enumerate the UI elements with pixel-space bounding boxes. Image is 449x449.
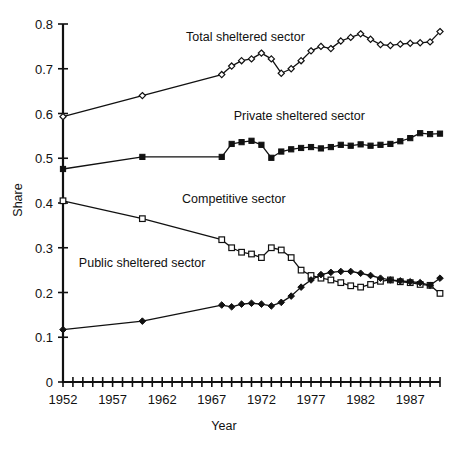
y-tick-label: 0.1 (35, 330, 53, 345)
data-point-open-square (239, 249, 245, 255)
data-point-filled-square (338, 142, 343, 147)
data-point-open-diamond (417, 40, 423, 46)
data-point-filled-square (388, 141, 393, 146)
data-point-filled-diamond (268, 303, 275, 310)
data-point-filled-square (408, 136, 413, 141)
data-point-open-square (219, 237, 225, 243)
data-point-open-square (60, 198, 66, 204)
x-tick-label: 1957 (98, 392, 127, 407)
data-point-filled-square (289, 147, 294, 152)
x-tick-label: 1962 (148, 392, 177, 407)
y-tick-label: 0.4 (35, 196, 53, 211)
data-point-filled-square (348, 143, 353, 148)
data-point-filled-diamond (367, 272, 374, 279)
data-point-open-diamond (397, 41, 403, 47)
data-point-open-square (328, 277, 334, 283)
y-axis-tick-labels: 00.10.20.30.40.50.60.70.8 (35, 17, 53, 390)
data-point-open-diamond (377, 41, 383, 47)
chart-series-group (60, 29, 444, 333)
data-point-open-square (437, 291, 443, 297)
data-point-filled-square (427, 131, 432, 136)
data-point-filled-diamond (357, 270, 364, 277)
data-point-open-diamond (387, 42, 393, 48)
data-point-open-diamond (248, 56, 254, 62)
data-point-open-square (368, 282, 374, 288)
data-point-open-square (298, 267, 304, 273)
data-point-open-diamond (238, 58, 244, 64)
x-axis-title: Year (211, 419, 236, 433)
data-point-filled-square (269, 155, 274, 160)
data-point-filled-diamond (328, 269, 335, 276)
chart-container: 00.10.20.30.40.50.60.70.8 19521957196219… (0, 0, 449, 449)
series-label-total-sheltered-sector: Total sheltered sector (186, 30, 305, 44)
data-point-open-diamond (258, 50, 264, 56)
y-axis-title: Share (11, 183, 25, 216)
data-point-open-square (358, 284, 364, 290)
data-point-filled-square (279, 149, 284, 154)
data-point-open-square (140, 216, 146, 222)
data-point-filled-square (328, 144, 333, 149)
data-point-open-square (288, 255, 294, 261)
series-label-private-sheltered-sector: Private sheltered sector (234, 109, 365, 123)
y-tick-label: 0 (46, 375, 53, 390)
y-tick-label: 0.2 (35, 286, 53, 301)
data-point-open-diamond (367, 36, 373, 42)
data-point-filled-diamond (218, 302, 225, 309)
x-tick-label: 1967 (197, 392, 226, 407)
series-label-competitive-sector: Competitive sector (182, 192, 286, 206)
data-point-filled-square (140, 154, 145, 159)
data-point-filled-square (239, 140, 244, 145)
data-point-open-diamond (358, 31, 364, 37)
data-point-open-diamond (60, 114, 66, 120)
data-point-filled-diamond (347, 268, 354, 275)
y-tick-label: 0.3 (35, 241, 53, 256)
data-point-filled-square (229, 141, 234, 146)
x-axis-tick-labels: 19521957196219671972197719821987 (49, 392, 425, 407)
data-point-open-square (229, 245, 235, 251)
data-point-open-square (278, 247, 284, 253)
data-point-filled-square (368, 143, 373, 148)
x-tick-label: 1952 (49, 392, 78, 407)
data-point-filled-diamond (258, 301, 265, 308)
data-point-filled-square (219, 154, 224, 159)
y-tick-label: 0.8 (35, 17, 53, 32)
data-point-open-square (338, 280, 344, 286)
x-tick-label: 1982 (346, 392, 375, 407)
x-tick-label: 1972 (247, 392, 276, 407)
y-tick-label: 0.5 (35, 151, 53, 166)
data-point-open-square (249, 251, 255, 257)
data-point-filled-square (259, 142, 264, 147)
series-competitive-sector (60, 198, 443, 296)
data-point-filled-diamond (139, 318, 146, 325)
series-label-public-sheltered-sector: Public sheltered sector (79, 256, 205, 270)
data-point-open-diamond (139, 93, 145, 99)
data-point-open-square (269, 245, 275, 251)
data-point-filled-diamond (248, 300, 255, 307)
data-point-filled-square (60, 166, 65, 171)
data-point-filled-square (308, 144, 313, 149)
data-point-filled-square (398, 139, 403, 144)
data-point-filled-square (437, 131, 442, 136)
data-point-open-diamond (407, 40, 413, 46)
data-point-filled-square (318, 146, 323, 151)
data-point-open-diamond (318, 43, 324, 49)
data-point-filled-square (358, 142, 363, 147)
data-point-open-square (348, 283, 354, 289)
data-point-open-diamond (348, 34, 354, 40)
y-tick-label: 0.6 (35, 107, 53, 122)
data-point-filled-diamond (60, 326, 67, 333)
x-tick-label: 1987 (396, 392, 425, 407)
data-point-filled-square (418, 131, 423, 136)
data-point-filled-diamond (228, 304, 235, 311)
data-point-filled-diamond (278, 299, 285, 306)
data-point-filled-square (299, 145, 304, 150)
data-point-filled-diamond (238, 301, 245, 308)
series-private-sheltered-sector (60, 131, 442, 172)
y-tick-label: 0.7 (35, 62, 53, 77)
data-point-open-square (259, 255, 265, 261)
data-point-filled-diamond (337, 268, 344, 275)
share-by-sector-line-chart: 00.10.20.30.40.50.60.70.8 19521957196219… (0, 0, 449, 449)
data-point-filled-square (378, 142, 383, 147)
series-public-sheltered-sector (60, 268, 444, 333)
data-point-filled-square (249, 138, 254, 143)
